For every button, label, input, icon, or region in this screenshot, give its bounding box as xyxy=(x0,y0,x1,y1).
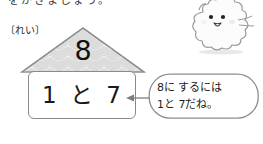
speech-bubble-line-2: 1と 7だね。 xyxy=(157,96,257,113)
cut-off-header-text: をかきましょう。 xyxy=(8,0,138,5)
speech-bubble-text: 8に するには 1と 7だね。 xyxy=(157,79,257,113)
speech-bubble: 8に するには 1と 7だね。 xyxy=(148,73,260,120)
fluffy-cloud-mascot-icon xyxy=(183,0,261,56)
speech-bubble-line-1: 8に するには xyxy=(157,79,257,96)
house-roof: 8 xyxy=(20,26,146,74)
illustration-canvas: をかきましょう。 〔れい〕 xyxy=(0,0,263,144)
house-body-box: 1 と 7 xyxy=(28,71,136,119)
roof-total-number: 8 xyxy=(20,36,146,66)
house-parts-expression: 1 と 7 xyxy=(29,78,137,112)
number-house: 8 1 と 7 xyxy=(20,26,146,74)
